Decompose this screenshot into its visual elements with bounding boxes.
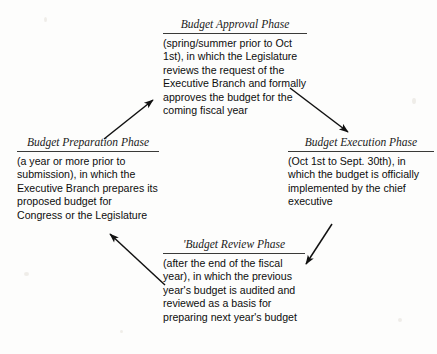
phase-heading-preparation: Budget Preparation Phase xyxy=(17,135,159,151)
phase-body-approval: (spring/summer prior to Oct 1st), in whi… xyxy=(163,37,307,117)
phase-heading-review: 'Budget Review Phase xyxy=(163,237,305,253)
phase-rule-execution xyxy=(288,151,434,152)
arrow-preparation-to-approval xyxy=(104,100,153,139)
phase-body-execution: (Oct 1st to Sept. 30th), in which the bu… xyxy=(288,155,434,209)
phase-body-review: (after the end of the fiscal year), in w… xyxy=(163,257,305,324)
phase-block-approval: Budget Approval Phase (spring/summer pri… xyxy=(163,17,307,117)
scan-speck xyxy=(398,318,402,322)
scan-speck xyxy=(44,17,47,22)
phase-rule-preparation xyxy=(17,151,159,152)
arrow-review-to-preparation xyxy=(110,234,165,285)
phase-body-preparation: (a year or more prior to submission), in… xyxy=(17,155,159,222)
phase-heading-execution: Budget Execution Phase xyxy=(288,135,434,151)
arrow-execution-to-review xyxy=(306,224,332,264)
scan-speck xyxy=(120,330,123,333)
phase-block-execution: Budget Execution Phase (Oct 1st to Sept.… xyxy=(288,135,434,209)
budget-cycle-diagram: Budget Approval Phase (spring/summer pri… xyxy=(0,0,437,354)
phase-rule-approval xyxy=(163,33,307,34)
phase-rule-review xyxy=(163,253,305,254)
phase-heading-approval: Budget Approval Phase xyxy=(163,17,307,33)
phase-block-preparation: Budget Preparation Phase (a year or more… xyxy=(17,135,159,222)
phase-block-review: 'Budget Review Phase (after the end of t… xyxy=(163,237,305,324)
scan-speck xyxy=(412,98,416,104)
scan-speck xyxy=(24,272,29,276)
